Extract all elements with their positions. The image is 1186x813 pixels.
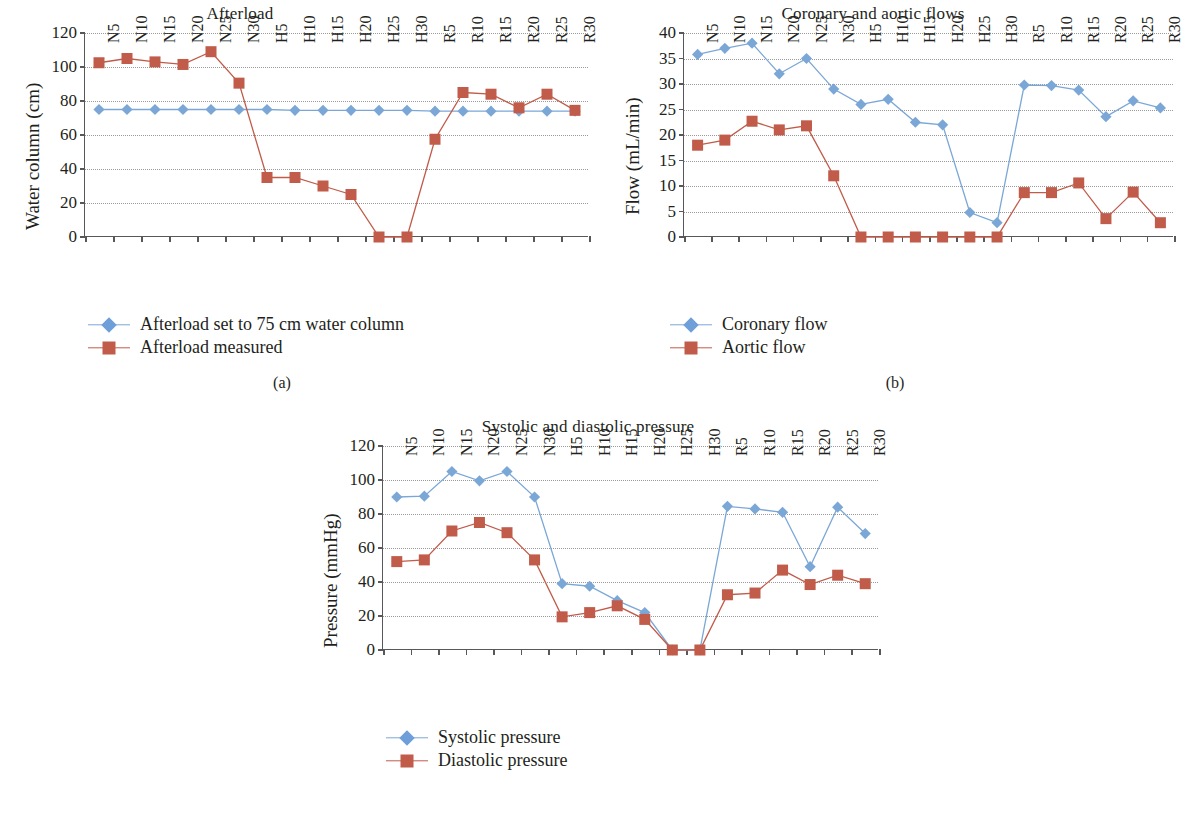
legend-item[interactable]: Aortic flow: [668, 336, 827, 359]
y-axis-tick-mark: [679, 58, 684, 60]
data-point-diamond: [345, 105, 356, 116]
chart-title-afterload: Afterload: [0, 4, 540, 24]
y-axis-tick: 0: [345, 640, 383, 660]
data-point-diamond: [910, 117, 921, 128]
gridline-vertical: [1065, 33, 1066, 237]
legend-item[interactable]: Systolic pressure: [384, 726, 567, 749]
x-axis-tick-mark: [521, 649, 523, 655]
y-axis-tick: 5: [646, 202, 684, 222]
data-point-diamond: [883, 94, 894, 105]
y-axis-tick-label: 120: [345, 436, 375, 456]
data-point-square: [474, 517, 485, 528]
plot-area-flows: 0510152025303540N5N10N15N20N25N30H5H10H1…: [683, 33, 1173, 237]
x-axis-tick-mark: [225, 236, 227, 242]
gridline-vertical: [1092, 33, 1093, 237]
gridline-vertical: [197, 33, 198, 237]
data-point-diamond: [485, 106, 496, 117]
legend-label: Systolic pressure: [430, 727, 560, 748]
data-point-diamond: [513, 106, 524, 117]
data-point-diamond: [569, 106, 580, 117]
data-point-square: [855, 232, 866, 243]
x-axis-tick-mark: [1011, 236, 1013, 242]
legend-item[interactable]: Afterload measured: [86, 336, 404, 359]
y-axis-tick-label: 0: [646, 227, 676, 247]
x-axis-tick-label: N30: [245, 15, 263, 43]
x-axis-tick-mark: [438, 649, 440, 655]
x-axis-tick-label: R30: [1166, 16, 1184, 43]
data-point-diamond: [832, 502, 843, 513]
x-axis-tick-label: N15: [758, 15, 776, 43]
data-point-diamond: [991, 217, 1002, 228]
x-axis-tick-mark: [383, 649, 385, 655]
y-axis-tick-label: 20: [646, 125, 676, 145]
y-axis-tick-label: 0: [345, 640, 375, 660]
gridline-vertical: [741, 446, 742, 650]
x-axis-tick-label: H30: [1003, 15, 1021, 43]
data-point-diamond: [373, 105, 384, 116]
gridline-vertical: [956, 33, 957, 237]
x-axis-tick-mark: [141, 236, 143, 242]
x-axis-tick-mark: [533, 236, 535, 242]
y-axis-tick: 100: [345, 470, 383, 490]
chart-panel-pressure: Systolic and diastolic pressure Pressure…: [293, 413, 893, 813]
data-point-square: [774, 124, 785, 135]
legend-item[interactable]: Diastolic pressure: [384, 749, 567, 772]
gridline-vertical: [225, 33, 226, 237]
data-point-square: [402, 232, 413, 243]
data-point-diamond: [317, 105, 328, 116]
x-axis-tick-label: H10: [894, 15, 912, 43]
x-axis-tick-label: R5: [1030, 24, 1048, 43]
x-axis-tick-mark: [741, 649, 743, 655]
gridline-vertical: [337, 33, 338, 237]
y-axis-tick: 120: [345, 436, 383, 456]
x-axis-tick-mark: [793, 236, 795, 242]
chart-title-flows: Coronary and aortic flows: [580, 4, 1166, 24]
data-point-square: [346, 189, 357, 200]
data-point-diamond: [719, 43, 730, 54]
x-axis-tick-label: N15: [458, 428, 476, 456]
gridline-vertical: [438, 446, 439, 650]
data-point-diamond: [557, 578, 568, 589]
data-point-diamond: [233, 104, 244, 115]
data-point-diamond: [612, 595, 623, 606]
x-axis-tick-label: R15: [1085, 16, 1103, 43]
x-axis-tick-label: R15: [789, 429, 807, 456]
gridline-vertical: [576, 446, 577, 650]
data-point-diamond: [529, 491, 540, 502]
y-axis-tick-label: 10: [646, 176, 676, 196]
gridline-vertical: [711, 33, 712, 237]
y-axis-label-flows: Flow (mL/min): [622, 97, 644, 215]
gridline-vertical: [793, 33, 794, 237]
data-point-diamond: [541, 106, 552, 117]
x-axis-tick-label: H20: [651, 428, 669, 456]
gridline-vertical: [738, 33, 739, 237]
data-point-diamond: [446, 466, 457, 477]
data-point-diamond: [289, 105, 300, 116]
gridline-vertical: [477, 33, 478, 237]
legend-item[interactable]: Coronary flow: [668, 313, 827, 336]
x-axis-tick-mark: [1038, 236, 1040, 242]
gridline-vertical: [589, 33, 590, 237]
legend-item[interactable]: Afterload set to 75 cm water column: [86, 313, 404, 336]
x-axis-tick-label: N20: [189, 15, 207, 43]
gridline-vertical: [365, 33, 366, 237]
gridline-vertical: [169, 33, 170, 237]
data-point-square: [570, 105, 581, 116]
y-axis-tick-mark: [378, 615, 383, 617]
y-axis-tick-label: 60: [47, 125, 77, 145]
y-axis-tick-mark: [80, 202, 85, 204]
x-axis-tick-label: N5: [105, 23, 123, 43]
data-point-diamond: [93, 104, 104, 115]
y-axis-tick-mark: [679, 211, 684, 213]
data-point-square: [1046, 187, 1057, 198]
x-axis-tick-mark: [714, 649, 716, 655]
y-axis-tick-label: 35: [646, 49, 676, 69]
gridline-vertical: [603, 446, 604, 650]
y-axis-tick: 60: [47, 125, 85, 145]
y-axis-tick-mark: [80, 32, 85, 34]
x-axis-tick-label: N10: [430, 428, 448, 456]
x-axis-tick-label: H20: [949, 15, 967, 43]
data-point-square: [777, 565, 788, 576]
x-axis-tick-mark: [85, 236, 87, 242]
data-point-diamond: [749, 503, 760, 514]
